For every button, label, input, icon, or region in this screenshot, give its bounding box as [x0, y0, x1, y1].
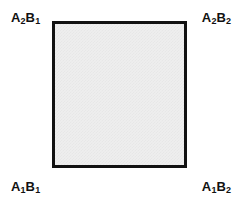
corner-bottom-right-b-level: 2: [226, 185, 231, 195]
corner-bottom-right-factor-a: A: [202, 179, 212, 194]
design-square: [52, 21, 187, 168]
corner-top-right-a-level: 2: [211, 16, 216, 26]
corner-label-bottom-left: A1B1: [11, 180, 40, 193]
corner-label-top-right: A2B2: [202, 11, 231, 24]
corner-label-top-left: A2B1: [11, 11, 40, 24]
corner-top-left-factor-a: A: [11, 10, 21, 25]
corner-label-bottom-right: A1B2: [202, 180, 231, 193]
corner-top-right-b-level: 2: [226, 16, 231, 26]
corner-bottom-left-factor-a: A: [11, 179, 21, 194]
corner-top-left-factor-b: B: [26, 10, 36, 25]
corner-bottom-left-b-level: 1: [35, 185, 40, 195]
corner-bottom-right-a-level: 1: [211, 185, 216, 195]
figure-canvas: A2B1 A2B2 A1B1 A1B2: [0, 0, 239, 203]
corner-bottom-left-factor-b: B: [26, 179, 36, 194]
corner-top-left-b-level: 1: [35, 16, 40, 26]
corner-bottom-left-a-level: 1: [21, 185, 26, 195]
corner-bottom-right-factor-b: B: [216, 179, 226, 194]
corner-top-right-factor-a: A: [202, 10, 212, 25]
corner-top-left-a-level: 2: [21, 16, 26, 26]
corner-top-right-factor-b: B: [216, 10, 226, 25]
